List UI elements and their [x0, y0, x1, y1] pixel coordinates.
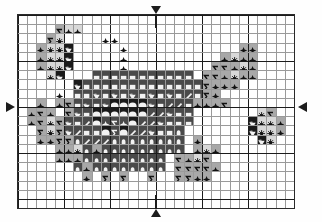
pattern-chart-stage — [0, 0, 322, 222]
center-marker-right — [298, 102, 310, 112]
center-marker-top — [151, 6, 161, 28]
center-marker-bottom — [151, 195, 161, 217]
center-marker-left — [6, 102, 18, 112]
grid-outer-frame — [17, 14, 295, 209]
cross-stitch-grid[interactable] — [18, 15, 294, 208]
